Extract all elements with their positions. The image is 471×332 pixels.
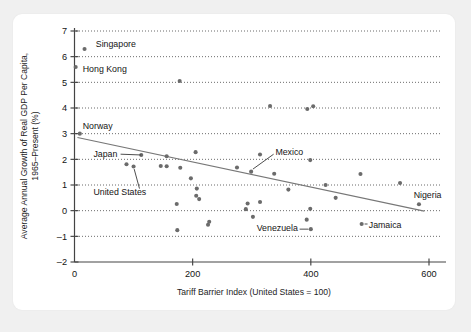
data-point [165,164,169,168]
scatter-chart: –2–101234567 0200400600 SingaporeHong Ko… [0,0,471,332]
annotation-norway: Norway [83,121,113,131]
data-point [324,183,328,187]
data-point [124,162,128,166]
data-point [175,228,179,232]
data-point-hong-kong [74,65,78,69]
data-point-norway [78,132,82,136]
x-tick-label-0: 0 [72,269,77,279]
data-point [244,207,248,211]
data-point [272,172,276,176]
x-tick-label-600: 600 [421,269,436,279]
y-tick-label-1: 1 [62,180,67,190]
data-point-united-states [132,164,136,168]
annotation-japan: Japan [93,149,117,159]
data-point [286,188,290,192]
gridlines [76,31,442,236]
y-tick-label--1: –1 [57,232,67,242]
leader-line-japan [121,154,142,155]
data-point-jamaica [360,222,364,226]
data-point [358,172,362,176]
data-point [251,215,255,219]
data-point [268,104,272,108]
annotation-united-states: United States [93,187,146,197]
y-tick-label-3: 3 [62,129,67,139]
y-tick-label-2: 2 [62,155,67,165]
data-point [197,197,201,201]
trend-line [77,138,424,212]
annotation-nigeria: Nigeria [414,190,442,200]
data-point [334,196,338,200]
data-point [175,202,179,206]
data-point [195,187,199,191]
annotation-singapore: Singapore [96,39,136,49]
data-point [165,154,169,158]
data-point [194,194,198,198]
data-point [178,166,182,170]
data-point [194,150,198,154]
data-point [235,165,239,169]
data-point [178,79,182,83]
annotation-jamaica: Jamaica [369,220,402,230]
x-tick-labels: 0200400600 [72,269,437,279]
data-point [159,164,163,168]
data-point [305,218,309,222]
data-point [311,104,315,108]
data-points [74,47,421,232]
y-tick-label--2: –2 [57,257,67,267]
data-point-venezuela [309,227,313,231]
x-tick-label-400: 400 [303,269,318,279]
data-point [246,201,250,205]
trend-line-group [77,138,424,212]
y-axis-title-line1: Average Annual Growth of Real GDP Per Ca… [19,53,29,239]
data-point [398,181,402,185]
y-tick-label-4: 4 [62,103,67,113]
y-tick-labels: –2–101234567 [57,26,67,267]
y-tick-label-0: 0 [62,206,67,216]
leader-line-mexico [253,154,274,169]
data-point-nigeria [417,202,421,206]
data-point [206,223,210,227]
annotation-venezuela: Venezuela [257,223,298,233]
y-axis-title-line2: 1965–Present (%) [30,111,40,180]
x-tick-label-200: 200 [185,269,200,279]
data-point [305,107,309,111]
annotation-hong-kong: Hong Kong [83,64,127,74]
y-tick-label-5: 5 [62,78,67,88]
data-point [258,152,262,156]
leader-line-united-states [134,169,139,189]
y-tick-label-6: 6 [62,52,67,62]
point-annotations: SingaporeHong KongNorwayJapanUnited Stat… [83,39,442,234]
data-point-singapore [82,47,86,51]
data-point [308,207,312,211]
data-point [189,176,193,180]
data-point [308,158,312,162]
x-axis-title: Tariff Barrier Index (United States = 10… [177,287,331,297]
y-tick-label-7: 7 [62,26,67,36]
data-point-mexico [249,170,253,174]
annotation-mexico: Mexico [275,147,303,157]
data-point [258,200,262,204]
